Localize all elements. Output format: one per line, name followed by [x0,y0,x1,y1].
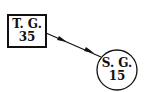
sg-node-label: S. G. 15 [97,57,137,83]
tg-node-label: T. G. 35 [8,18,46,44]
tg-value: 35 [8,31,46,44]
arrowhead-icon [57,36,67,42]
sg-value: 15 [97,70,137,83]
edge-line [46,33,101,57]
